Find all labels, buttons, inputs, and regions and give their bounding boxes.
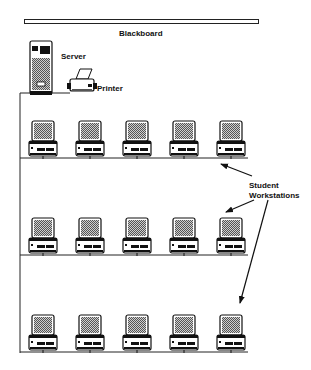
workstation-row-3 — [29, 315, 245, 353]
server-icon — [30, 41, 52, 95]
network-diagram — [0, 0, 311, 370]
printer-icon — [67, 69, 97, 91]
workstation-row-1 — [29, 121, 245, 159]
workstation-row-2 — [29, 218, 245, 256]
